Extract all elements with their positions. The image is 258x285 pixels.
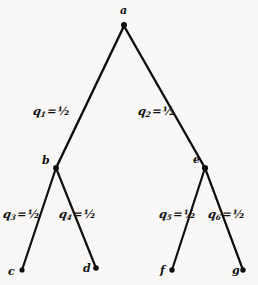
node-label-e: e [193, 154, 200, 165]
edge-label-b-d: q4=½ [59, 209, 95, 222]
node-dot-g [240, 267, 245, 272]
tree-graphics [0, 0, 258, 285]
edge-label-e-f: q5=½ [159, 209, 195, 222]
edge-a-e [124, 26, 205, 168]
edge-fraction: ½ [56, 104, 70, 118]
edge-label-e-g: q6=½ [208, 209, 244, 222]
node-dot-a [121, 22, 127, 28]
node-label-g: g [232, 265, 240, 276]
edge-label-a-b: q1=½ [33, 106, 69, 119]
edge-fraction: ½ [82, 207, 96, 221]
tree-node-dots [19, 22, 245, 273]
node-dot-b [53, 165, 59, 171]
node-dot-e [202, 165, 208, 171]
node-label-c: c [8, 266, 15, 277]
edge-fraction: ½ [182, 207, 196, 221]
edge-fraction: ½ [161, 104, 175, 118]
probability-tree-diagram: a b e c d f g q1=½ q2=½ q3=½ q4=½ q5=½ q… [0, 0, 258, 285]
edge-fraction: ½ [26, 207, 40, 221]
node-label-f: f [160, 265, 165, 276]
node-dot-c [19, 267, 24, 272]
node-label-b: b [42, 155, 50, 166]
edge-a-b [56, 26, 124, 168]
node-label-d: d [83, 263, 91, 274]
node-label-a: a [120, 5, 127, 16]
edge-fraction: ½ [231, 207, 245, 221]
edge-label-b-c: q3=½ [3, 209, 39, 222]
node-dot-f [169, 267, 174, 272]
edge-label-a-e: q2=½ [138, 106, 174, 119]
tree-edges [22, 26, 243, 270]
node-dot-d [93, 265, 99, 271]
